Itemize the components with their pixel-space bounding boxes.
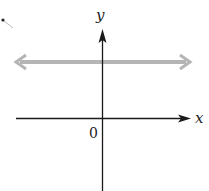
- x-axis: [16, 115, 191, 123]
- corner-mark: [1, 18, 13, 28]
- y-axis-label: y: [95, 6, 105, 24]
- origin-label: 0: [89, 125, 98, 141]
- x-axis-label: x: [195, 109, 204, 127]
- y-axis: [99, 29, 107, 191]
- coordinate-diagram: y x 0: [0, 0, 209, 191]
